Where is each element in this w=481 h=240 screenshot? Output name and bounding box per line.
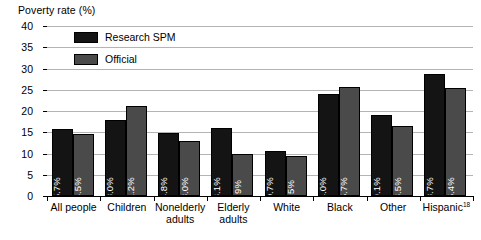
bar-research-spm-black: 24.0% — [318, 94, 339, 196]
legend-swatch-icon — [74, 32, 98, 43]
y-axis-tick-label-20: 20 — [5, 106, 33, 116]
y-axis-tick-label-5: 5 — [5, 170, 33, 180]
y-axis-tick-mark-40 — [43, 26, 47, 27]
bar-value-label: 18.0% — [105, 177, 116, 196]
y-axis-tick-mark-30 — [43, 69, 47, 70]
bar-official-black: 25.7% — [339, 87, 360, 196]
y-axis-tick-mark-25 — [43, 90, 47, 91]
category-label-line2: adults — [166, 213, 194, 225]
bar-value-label: 25.7% — [339, 177, 350, 196]
bar-official-children: 21.2% — [126, 106, 147, 196]
bar-research-spm-hispanic: 28.7% — [424, 74, 445, 196]
gridline-30 — [47, 69, 473, 70]
legend-item-research-spm: Research SPM — [74, 31, 176, 43]
category-label-line2: adults — [219, 213, 247, 225]
gridline-35 — [47, 47, 473, 48]
category-label-line1: All people — [51, 201, 97, 213]
x-axis-tick-mark — [367, 196, 368, 201]
x-axis-tick-mark — [100, 196, 101, 201]
category-label-footnote-marker: 18 — [463, 201, 470, 208]
x-axis-end-tick-left — [47, 196, 48, 201]
bar-value-label: 9.5% — [286, 180, 297, 196]
y-axis-tick-mark-15 — [43, 132, 47, 133]
x-axis-tick-mark — [313, 196, 314, 201]
category-label-line1: Black — [327, 201, 353, 213]
y-axis-tick-mark-35 — [43, 47, 47, 48]
bar-value-label: 14.8% — [158, 177, 169, 196]
bar-research-spm-elderly-adults: 16.1% — [211, 128, 232, 196]
bar-research-spm-children: 18.0% — [105, 120, 126, 197]
bar-value-label: 15.7% — [52, 177, 63, 196]
y-axis-tick-mark-20 — [43, 111, 47, 112]
bar-research-spm-other: 19.1% — [371, 115, 392, 196]
bar-value-label: 16.1% — [211, 177, 222, 196]
bar-value-label: 10.7% — [265, 177, 276, 196]
y-axis-tick-label-40: 40 — [5, 21, 33, 31]
gridline-40 — [47, 26, 473, 27]
x-axis-end-tick-right — [473, 196, 474, 201]
legend-item-official: Official — [74, 53, 137, 65]
x-axis-tick-mark — [420, 196, 421, 201]
bar-official-white: 9.5% — [286, 156, 307, 196]
y-axis-tick-mark-10 — [43, 154, 47, 155]
bar-value-label: 24.0% — [318, 177, 329, 196]
y-axis-tick-label-0: 0 — [5, 191, 33, 201]
legend-label: Official — [105, 54, 137, 65]
bar-research-spm-nonelderly-adults: 14.8% — [158, 133, 179, 196]
category-label-line1: Elderly — [217, 201, 249, 213]
bar-research-spm-all-people: 15.7% — [52, 129, 73, 196]
bar-value-label: 25.4% — [445, 177, 456, 196]
bar-value-label: 9.9% — [232, 180, 243, 196]
bar-official-all-people: 14.5% — [73, 134, 94, 196]
bar-value-label: 21.2% — [126, 177, 137, 196]
x-axis-tick-mark — [207, 196, 208, 201]
y-axis-tick-label-10: 10 — [5, 149, 33, 159]
legend-swatch-icon — [74, 54, 98, 65]
bar-official-hispanic: 25.4% — [445, 88, 466, 196]
category-label-line1: White — [273, 201, 300, 213]
bar-official-nonelderly-adults: 13.0% — [179, 141, 200, 196]
y-axis-tick-label-30: 30 — [5, 64, 33, 74]
category-label-line1: Other — [380, 201, 406, 213]
bar-value-label: 19.1% — [371, 177, 382, 196]
poverty-rate-bar-chart: Poverty rate (%) 051015202530354015.7%14… — [0, 0, 481, 240]
x-axis-category-label-hispanic: Hispanic18 — [414, 202, 479, 214]
y-axis-tick-mark-5 — [43, 175, 47, 176]
category-label-line1: Hispanic — [423, 201, 463, 213]
bar-official-elderly-adults: 9.9% — [232, 154, 253, 196]
gridline-25 — [47, 90, 473, 91]
y-axis-tick-label-35: 35 — [5, 42, 33, 52]
category-label-line1: Nonelderly — [155, 201, 205, 213]
x-axis-tick-mark — [154, 196, 155, 201]
y-axis-title: Poverty rate (%) — [18, 4, 95, 16]
legend-label: Research SPM — [105, 32, 176, 43]
bar-value-label: 16.5% — [392, 177, 403, 196]
bar-value-label: 28.7% — [424, 177, 435, 196]
bar-research-spm-white: 10.7% — [265, 151, 286, 196]
bar-value-label: 14.5% — [73, 177, 84, 196]
bar-official-other: 16.5% — [392, 126, 413, 196]
bar-value-label: 13.0% — [179, 177, 190, 196]
x-axis-tick-mark — [260, 196, 261, 201]
gridline-20 — [47, 111, 473, 112]
y-axis-tick-label-15: 15 — [5, 127, 33, 137]
y-axis-tick-label-25: 25 — [5, 85, 33, 95]
plot-area: 051015202530354015.7%14.5%18.0%21.2%14.8… — [47, 26, 473, 196]
category-label-line1: Children — [107, 201, 146, 213]
